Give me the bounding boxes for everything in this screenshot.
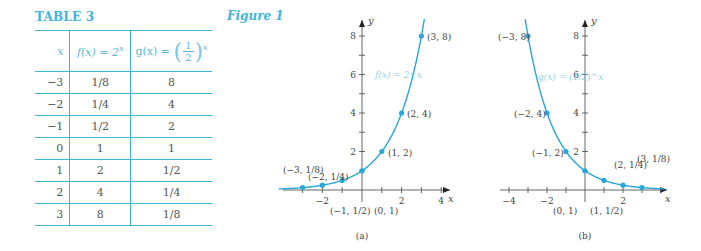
point-annotation: (1, 2) xyxy=(388,148,412,158)
data-point xyxy=(379,149,384,154)
data-point xyxy=(639,185,644,190)
x-axis-label: x xyxy=(665,193,671,204)
point-annotation: (−1, 2) xyxy=(532,148,564,158)
point-annotation: (1, 1/2) xyxy=(590,206,623,216)
x-tick-label: −2 xyxy=(540,196,553,206)
point-annotation: (−3, 8) xyxy=(498,32,530,42)
data-point xyxy=(601,178,606,183)
y-tick-label: 4 xyxy=(573,108,579,118)
y-tick-label: 6 xyxy=(350,70,356,80)
exponential-graphs: xy−2242468(−3, 1/8)(−2, 1/4)(−1, 1/2)(0,… xyxy=(0,0,701,251)
data-point xyxy=(320,183,325,188)
chart-b-g-of-x: xy−4−222468(−3, 8)(−2, 4)(−1, 2)(0, 1)(1… xyxy=(498,15,671,241)
function-label: f(x) = 2^x xyxy=(374,70,422,80)
data-point xyxy=(419,33,424,38)
y-tick-label: 8 xyxy=(350,31,356,41)
x-tick-label: 4 xyxy=(438,196,444,206)
data-point xyxy=(620,183,625,188)
chart-caption: (b) xyxy=(579,231,592,241)
data-point xyxy=(563,149,568,154)
point-annotation: (0, 1) xyxy=(553,206,577,216)
x-axis-label: x xyxy=(448,193,454,204)
data-point xyxy=(300,185,305,190)
x-tick-label: −2 xyxy=(316,196,329,206)
y-axis-arrow-icon xyxy=(582,20,588,27)
y-axis-label: y xyxy=(590,15,597,26)
y-axis-arrow-icon xyxy=(359,20,365,27)
x-tick-label: 2 xyxy=(399,196,405,206)
point-annotation: (3, 8) xyxy=(427,32,451,42)
point-annotation: (0, 1) xyxy=(374,206,398,216)
point-annotation: (−2, 1/4) xyxy=(308,172,349,182)
y-axis-label: y xyxy=(367,15,374,26)
point-annotation: (2, 4) xyxy=(407,109,431,119)
point-annotation: (−2, 4) xyxy=(514,109,546,119)
x-tick-label: 2 xyxy=(620,196,626,206)
y-tick-label: 8 xyxy=(573,31,579,41)
y-tick-label: 2 xyxy=(573,147,579,157)
function-label: g(x) = (1/2)^x xyxy=(538,72,603,82)
function-curve xyxy=(279,19,425,189)
y-tick-label: 4 xyxy=(350,108,356,118)
chart-a-f-of-x: xy−2242468(−3, 1/8)(−2, 1/4)(−1, 1/2)(0,… xyxy=(279,15,454,241)
point-annotation: (3, 1/8) xyxy=(637,154,670,164)
data-point xyxy=(582,168,587,173)
data-point xyxy=(399,110,404,115)
point-annotation: (−1, 1/2) xyxy=(330,206,371,216)
data-point xyxy=(359,168,364,173)
y-tick-label: 2 xyxy=(350,147,356,157)
x-tick-label: −4 xyxy=(502,196,516,206)
chart-caption: (a) xyxy=(356,231,368,241)
